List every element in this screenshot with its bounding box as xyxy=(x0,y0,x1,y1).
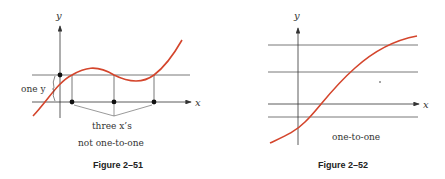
x-dot-1 xyxy=(70,100,75,105)
three-x-label: three x’s xyxy=(92,121,132,131)
connector-3 xyxy=(114,105,152,116)
connector-1 xyxy=(74,105,114,116)
y-axis-label: y xyxy=(55,10,62,21)
subtitle: one-to-one xyxy=(332,132,380,142)
y-axis-label: y xyxy=(293,10,300,21)
cubic-curve xyxy=(33,40,182,116)
one-y-brace xyxy=(53,76,56,101)
increasing-curve xyxy=(270,36,417,143)
x-axis-label: x xyxy=(423,99,429,110)
subtitle: not one-to-one xyxy=(78,138,144,148)
one-y-label: one y xyxy=(21,84,46,94)
figure-2-52: y x one-to-one Figure 2–52 xyxy=(268,10,429,170)
figure-caption: Figure 2–51 xyxy=(93,160,143,170)
y-intercept-dot xyxy=(58,73,63,78)
stray-dot xyxy=(379,81,381,83)
figure-caption: Figure 2–52 xyxy=(318,160,368,170)
x-dot-2 xyxy=(112,100,117,105)
x-dot-3 xyxy=(152,100,157,105)
x-axis-label: x xyxy=(195,97,201,108)
figures-canvas: y x one y three x’s not one-to-one Figur… xyxy=(0,0,445,179)
figure-2-51: y x one y three x’s not one-to-one Figur… xyxy=(21,10,201,170)
